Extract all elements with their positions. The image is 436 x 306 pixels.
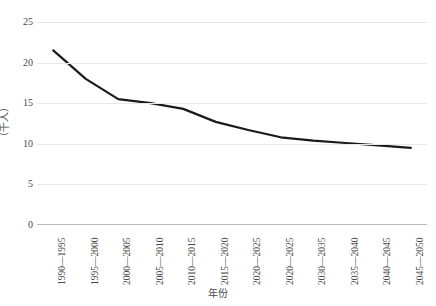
gridline (37, 184, 427, 185)
gridline (37, 103, 427, 104)
y-axis-tick-label: 0 (3, 220, 33, 230)
x-axis-tick-labels: 1990—19951995—20002000—20052005—20102010… (37, 227, 427, 289)
x-axis-tick-label: 2005—2010 (155, 238, 165, 286)
y-axis-tick-labels: 0510152025 (0, 0, 33, 306)
x-axis-title: 年份 (0, 288, 436, 300)
x-axis-tick-label: 2020—2025 (285, 238, 295, 286)
x-axis-tick-label: 2045—2050 (415, 238, 425, 286)
x-axis-tick-label: 2000—2005 (122, 238, 132, 286)
x-axis-tick-label: 2020—2025 (252, 238, 262, 286)
y-axis-title: （千人） (0, 92, 10, 152)
y-axis-tick-label: 25 (3, 17, 33, 27)
gridline (37, 63, 427, 64)
gridline (37, 144, 427, 145)
gridline (37, 22, 427, 23)
x-axis-tick-label: 1995—2000 (90, 238, 100, 286)
series-line-population (37, 22, 427, 225)
x-axis-tick-label: 2030—2035 (317, 238, 327, 286)
x-axis-tick-label: 1990—1995 (57, 238, 67, 286)
x-axis-line (37, 224, 427, 225)
x-axis-tick-label: 2015—2020 (220, 238, 230, 286)
plot-area (37, 22, 427, 225)
x-axis-tick-label: 2040—2045 (382, 238, 392, 286)
y-axis-tick-label: 20 (3, 58, 33, 68)
line-chart: 0510152025 （千人） 1990—19951995—20002000—2… (0, 0, 436, 306)
x-axis-tick-label: 2010—2015 (187, 238, 197, 286)
x-axis-tick-label: 2035—2040 (350, 238, 360, 286)
y-axis-tick-label: 5 (3, 179, 33, 189)
